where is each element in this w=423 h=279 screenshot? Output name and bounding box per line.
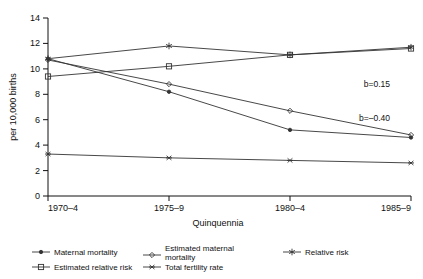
x-axis-tick-labels: 1970–4 1975–9 1980–4 1985–9 bbox=[48, 203, 411, 213]
y-axis-title: per 10,000 births bbox=[8, 73, 18, 141]
legend-label: Maternal mortality bbox=[54, 248, 118, 257]
x-tick-label: 1975–9 bbox=[154, 203, 184, 213]
series-total-fertility-rate bbox=[45, 152, 414, 165]
y-tick-label: 6 bbox=[35, 115, 40, 125]
y-tick-label: 8 bbox=[35, 89, 40, 99]
legend-label: Total fertility rate bbox=[165, 263, 224, 272]
legend-item-estimated-relative-risk: Estimated relative risk bbox=[32, 263, 133, 272]
y-axis-tick-labels: 0 2 4 6 8 10 12 14 bbox=[30, 13, 40, 201]
y-tick-label: 0 bbox=[35, 191, 40, 201]
legend-label: Estimated maternal bbox=[165, 244, 234, 253]
chart-figure: 0 2 4 6 8 10 12 14 per 10,000 births 197… bbox=[0, 0, 423, 279]
legend-label: Estimated relative risk bbox=[54, 263, 133, 272]
data-point bbox=[166, 156, 172, 160]
annotation-layer: b=0.15b=–0.40 bbox=[359, 79, 390, 123]
legend-label: mortality bbox=[165, 253, 195, 262]
y-tick-label: 12 bbox=[30, 38, 40, 48]
x-axis-title: Quinquennia bbox=[192, 218, 243, 228]
line-chart: 0 2 4 6 8 10 12 14 per 10,000 births 197… bbox=[0, 0, 423, 279]
series-estimated-maternal-mortality bbox=[45, 57, 413, 137]
legend-item-total-fertility-rate: Total fertility rate bbox=[143, 263, 224, 272]
x-tick-label: 1970–4 bbox=[48, 203, 78, 213]
chart-legend: Maternal mortalityEstimated maternalmort… bbox=[32, 244, 350, 272]
x-axis-ticks bbox=[48, 196, 411, 201]
data-point bbox=[288, 128, 291, 131]
chart-annotation: b=0.15 bbox=[364, 79, 391, 89]
legend-marker bbox=[149, 265, 155, 269]
series-estimated-relative-risk bbox=[45, 46, 413, 79]
legend-item-relative-risk: Relative risk bbox=[283, 248, 350, 257]
y-tick-label: 4 bbox=[35, 140, 40, 150]
series-maternal-mortality bbox=[46, 57, 412, 139]
chart-annotation: b=–0.40 bbox=[359, 113, 390, 123]
x-tick-label: 1985–9 bbox=[381, 203, 411, 213]
y-tick-label: 10 bbox=[30, 64, 40, 74]
y-tick-label: 2 bbox=[35, 166, 40, 176]
legend-item-estimated-maternal-mortality: Estimated maternalmortality bbox=[143, 244, 234, 262]
legend-label: Relative risk bbox=[305, 248, 350, 257]
x-tick-label: 1980–4 bbox=[275, 203, 305, 213]
legend-item-maternal-mortality: Maternal mortality bbox=[32, 248, 118, 257]
y-axis-ticks bbox=[43, 18, 48, 196]
data-point bbox=[167, 90, 170, 93]
y-tick-label: 14 bbox=[30, 13, 40, 23]
data-point bbox=[408, 161, 414, 165]
data-point bbox=[287, 158, 293, 162]
series-relative-risk bbox=[45, 43, 414, 62]
series-layer bbox=[45, 43, 414, 165]
legend-marker bbox=[39, 250, 42, 253]
